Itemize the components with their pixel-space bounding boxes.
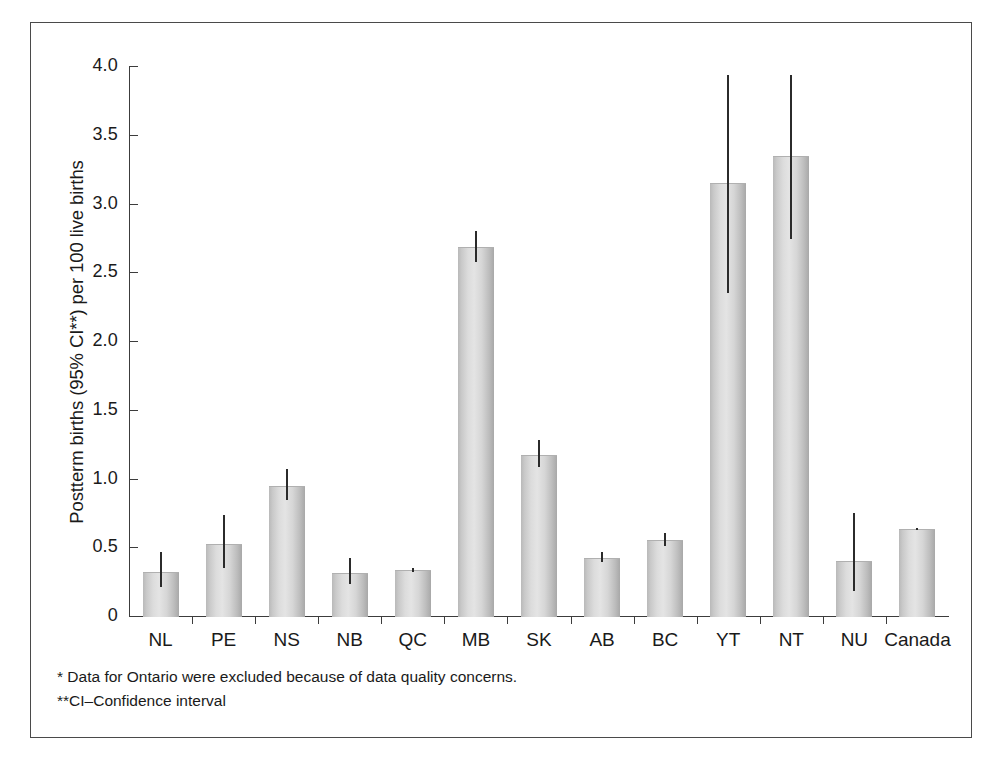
y-axis-title: Postterm births (95% CI**) per 100 live … xyxy=(65,67,89,617)
x-tick-label-canada: Canada xyxy=(884,629,951,651)
y-tick-label: 2.0 xyxy=(92,330,118,351)
bar-group-nb[interactable]: NB xyxy=(318,67,381,617)
footnotes: * Data for Ontario were excluded because… xyxy=(57,665,517,713)
y-axis-title-text: Postterm births (95% CI**) per 100 live … xyxy=(66,160,88,524)
bar-canada[interactable] xyxy=(899,529,935,617)
footnote-1: * Data for Ontario were excluded because… xyxy=(57,665,517,689)
y-tick-label: 4.0 xyxy=(92,55,118,76)
bar-group-ab[interactable]: AB xyxy=(571,67,634,617)
figure-frame: Postterm births (95% CI**) per 100 live … xyxy=(30,22,972,738)
x-tick-mark xyxy=(760,617,761,624)
x-tick-mark xyxy=(571,617,572,624)
x-tick-label-nb: NB xyxy=(337,629,363,651)
bar-qc[interactable] xyxy=(395,570,431,617)
x-tick-mark xyxy=(318,617,319,624)
x-tick-label-ab: AB xyxy=(589,629,614,651)
x-tick-label-nl: NL xyxy=(148,629,172,651)
x-tick-mark xyxy=(823,617,824,624)
y-tick-label: 3.0 xyxy=(92,193,118,214)
error-bar-nu xyxy=(853,513,855,591)
x-tick-label-nt: NT xyxy=(779,629,804,651)
x-tick-mark xyxy=(444,617,445,624)
x-tick-label-mb: MB xyxy=(462,629,491,651)
footnote-2: **CI–Confidence interval xyxy=(57,689,517,713)
x-tick-label-yt: YT xyxy=(716,629,740,651)
error-bar-canada xyxy=(916,528,918,531)
bar-group-yt[interactable]: YT xyxy=(697,67,760,617)
bar-ab[interactable] xyxy=(584,558,620,617)
error-bar-mb xyxy=(475,231,477,263)
x-tick-label-pe: PE xyxy=(211,629,236,651)
bar-group-bc[interactable]: BC xyxy=(634,67,697,617)
error-bar-nb xyxy=(349,558,351,584)
y-tick-label: 3.5 xyxy=(92,124,118,145)
error-bar-qc xyxy=(412,568,414,572)
error-bar-bc xyxy=(664,533,666,545)
x-tick-label-sk: SK xyxy=(526,629,551,651)
x-tick-label-qc: QC xyxy=(399,629,428,651)
y-tick-label: 0 xyxy=(108,605,118,626)
error-bar-yt xyxy=(727,75,729,292)
x-tick-mark xyxy=(634,617,635,624)
x-tick-label-ns: NS xyxy=(273,629,299,651)
x-tick-mark xyxy=(255,617,256,624)
bar-ns[interactable] xyxy=(269,486,305,617)
bar-group-sk[interactable]: SK xyxy=(507,67,570,617)
error-bar-pe xyxy=(223,515,225,567)
error-bar-sk xyxy=(538,440,540,468)
bar-group-qc[interactable]: QC xyxy=(381,67,444,617)
x-tick-label-bc: BC xyxy=(652,629,678,651)
bar-mb[interactable] xyxy=(458,247,494,617)
bar-group-canada[interactable]: Canada xyxy=(886,67,949,617)
error-bar-nt xyxy=(790,75,792,239)
x-tick-mark xyxy=(192,617,193,624)
y-tick-label: 1.0 xyxy=(92,468,118,489)
bar-group-nt[interactable]: NT xyxy=(760,67,823,617)
x-tick-label-nu: NU xyxy=(841,629,868,651)
bar-sk[interactable] xyxy=(521,455,557,617)
bar-bc[interactable] xyxy=(647,540,683,617)
bar-group-pe[interactable]: PE xyxy=(192,67,255,617)
bar-group-nu[interactable]: NU xyxy=(823,67,886,617)
error-bar-nl xyxy=(160,552,162,586)
x-tick-mark xyxy=(697,617,698,624)
bar-group-nl[interactable]: NL xyxy=(129,67,192,617)
y-tick-label: 2.5 xyxy=(92,261,118,282)
bar-group-ns[interactable]: NS xyxy=(255,67,318,617)
x-tick-mark xyxy=(886,617,887,624)
error-bar-ns xyxy=(286,469,288,501)
error-bar-ab xyxy=(601,552,603,562)
x-tick-mark xyxy=(507,617,508,624)
x-tick-mark xyxy=(381,617,382,624)
bar-group-mb[interactable]: MB xyxy=(444,67,507,617)
plot-region: 4.03.53.02.52.01.51.00.50 NLPENSNBQCMBSK… xyxy=(129,67,949,617)
y-tick-label: 0.5 xyxy=(92,536,118,557)
y-tick-label: 1.5 xyxy=(92,399,118,420)
